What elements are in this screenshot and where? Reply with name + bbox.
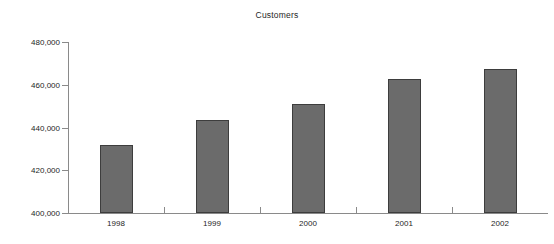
bar: [196, 120, 229, 213]
bar: [100, 145, 133, 213]
bar: [484, 69, 517, 213]
x-axis-tick-label: 1998: [86, 219, 146, 228]
y-axis-tick: [62, 42, 68, 43]
y-axis-tick-label: 440,000: [4, 123, 60, 132]
y-axis-tick-label: 400,000: [4, 209, 60, 218]
y-axis-tick: [62, 213, 68, 214]
x-axis-tick-label: 2002: [470, 219, 530, 228]
x-axis-tick-label: 2001: [374, 219, 434, 228]
y-axis-tick: [62, 170, 68, 171]
y-axis-tick-label: 480,000: [4, 38, 60, 47]
chart-title: Customers: [0, 10, 554, 20]
x-axis-minor-tick: [356, 207, 357, 213]
y-axis-tick: [62, 85, 68, 86]
x-axis-minor-tick: [164, 207, 165, 213]
y-axis-tick: [62, 128, 68, 129]
bar: [292, 104, 325, 213]
y-axis-tick-label: 460,000: [4, 80, 60, 89]
bar: [388, 79, 421, 213]
x-axis-minor-tick: [260, 207, 261, 213]
y-axis-line: [68, 42, 69, 214]
x-axis-tick-label: 1999: [182, 219, 242, 228]
y-axis-tick-label: 420,000: [4, 166, 60, 175]
x-axis-minor-tick: [452, 207, 453, 213]
x-axis-tick-label: 2000: [278, 219, 338, 228]
bar-chart: Customers 400,000420,000440,000460,00048…: [0, 0, 554, 244]
x-axis-line: [68, 213, 548, 214]
